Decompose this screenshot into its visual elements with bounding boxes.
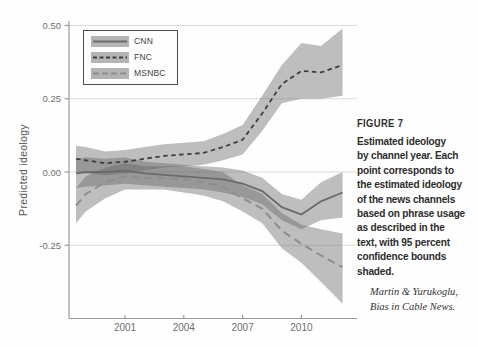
caption-line: text, with 95 percent [357, 235, 470, 249]
caption-line: the estimated ideology [357, 177, 470, 191]
legend-label-cnn: CNN [134, 37, 153, 46]
caption-line: shaded. [357, 264, 470, 278]
y-tick-label: 0.00 [43, 167, 62, 178]
msnbc-band-swatch-icon [91, 68, 129, 79]
figure-page: 0.500.250.00-0.252001200420072010Predict… [0, 0, 478, 347]
legend-label-msnbc: MSNBC [134, 69, 166, 78]
figure-caption-attribution: Martin & Yurukoglu,Bias in Cable News. [370, 284, 475, 314]
legend-item-fnc: FNC [91, 52, 171, 63]
caption-line: point corresponds to [357, 163, 470, 177]
caption-line: Estimated ideology [357, 134, 470, 148]
figure-caption-heading: FIGURE 7 [357, 118, 468, 129]
ideology-line-chart: 0.500.250.00-0.252001200420072010Predict… [0, 0, 360, 347]
y-tick-label: -0.25 [39, 240, 61, 251]
caption-line: by channel year. Each [357, 148, 470, 162]
figure-caption-body: Estimated ideologyby channel year. Eachp… [357, 134, 475, 278]
caption-line: as described in the [357, 220, 470, 234]
y-tick-label: 0.50 [43, 20, 62, 31]
caption-line: confidence bounds [357, 249, 470, 263]
fnc-band-swatch-icon [91, 52, 129, 63]
legend-label-fnc: FNC [134, 53, 152, 62]
caption-line: Martin & Yurukoglu, [370, 284, 475, 299]
caption-line: Bias in Cable News. [370, 299, 475, 314]
caption-line: of the news channels [357, 192, 470, 206]
legend-item-cnn: CNN [91, 36, 171, 47]
chart-legend: CNN FNC MSNBC [83, 30, 178, 85]
cnn-band-swatch-icon [91, 36, 129, 47]
x-tick-label: 2001 [114, 322, 137, 333]
x-tick-label: 2004 [173, 322, 196, 333]
caption-line: based on phrase usage [357, 206, 470, 220]
x-tick-label: 2010 [290, 322, 313, 333]
y-axis-title: Predicted ideology [17, 124, 29, 216]
x-tick-label: 2007 [231, 322, 254, 333]
y-tick-label: 0.25 [43, 93, 62, 104]
legend-item-msnbc: MSNBC [91, 68, 171, 79]
figure-caption: FIGURE 7 Estimated ideologyby channel ye… [357, 118, 475, 314]
